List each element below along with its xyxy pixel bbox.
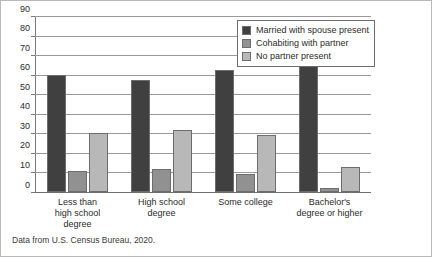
y-tick-mark: [31, 192, 35, 193]
legend-label: Married with spouse present: [256, 26, 369, 35]
x-axis: [35, 192, 371, 193]
x-axis-label-line: Less than: [33, 197, 123, 208]
legend: Married with spouse presentCohabiting wi…: [237, 20, 375, 67]
y-tick-mark: [31, 36, 35, 37]
y-tick-mark: [31, 133, 35, 134]
y-tick-label: 30: [20, 121, 30, 130]
legend-label: No partner present: [256, 52, 331, 61]
y-tick-mark: [31, 75, 35, 76]
y-tick-label: 70: [20, 43, 30, 52]
source-caption: Data from U.S. Census Bureau, 2020.: [12, 235, 155, 245]
x-axis-label: Some college: [201, 197, 291, 208]
bar: [89, 133, 108, 192]
legend-swatch-icon: [242, 39, 251, 48]
bar: [152, 169, 171, 192]
y-tick-mark: [31, 55, 35, 56]
y-tick-mark: [31, 153, 35, 154]
y-tick-mark: [31, 172, 35, 173]
legend-label: Cohabiting with partner: [256, 39, 349, 48]
y-axis: [35, 17, 36, 193]
y-tick-label: 60: [20, 63, 30, 72]
y-tick-label: 90: [20, 4, 30, 13]
bar: [215, 70, 234, 192]
figure-container: 0102030405060708090 Less thanhigh school…: [0, 0, 432, 257]
legend-item: Married with spouse present: [242, 24, 369, 37]
y-tick-label: 50: [20, 82, 30, 91]
x-axis-label-line: degree or higher: [285, 208, 375, 219]
x-axis-label: Less thanhigh schooldegree: [33, 197, 123, 230]
bar-group: [47, 16, 108, 192]
legend-item: Cohabiting with partner: [242, 37, 369, 50]
bar: [68, 171, 87, 193]
x-axis-label-line: Some college: [201, 197, 291, 208]
y-tick-label: 80: [20, 24, 30, 33]
legend-item: No partner present: [242, 50, 369, 63]
x-axis-label-line: high school: [33, 208, 123, 219]
x-axis-label: High schooldegree: [117, 197, 207, 219]
bar: [131, 80, 150, 192]
y-tick-label: 10: [20, 160, 30, 169]
y-tick-label: 0: [25, 180, 30, 189]
y-tick-label: 20: [20, 141, 30, 150]
legend-swatch-icon: [242, 52, 251, 61]
x-axis-label: Bachelor'sdegree or higher: [285, 197, 375, 219]
bar-group: [131, 16, 192, 192]
bar: [173, 130, 192, 192]
legend-swatch-icon: [242, 26, 251, 35]
y-tick-mark: [31, 16, 35, 17]
x-axis-label-line: Bachelor's: [285, 197, 375, 208]
bar: [47, 75, 66, 192]
x-axis-label-line: degree: [33, 219, 123, 230]
bar: [257, 135, 276, 192]
y-tick-mark: [31, 114, 35, 115]
x-axis-label-line: High school: [117, 197, 207, 208]
y-tick-label: 40: [20, 102, 30, 111]
y-tick-mark: [31, 94, 35, 95]
x-axis-label-line: degree: [117, 208, 207, 219]
bar: [341, 167, 360, 192]
bar: [320, 188, 339, 192]
bar: [236, 174, 255, 192]
